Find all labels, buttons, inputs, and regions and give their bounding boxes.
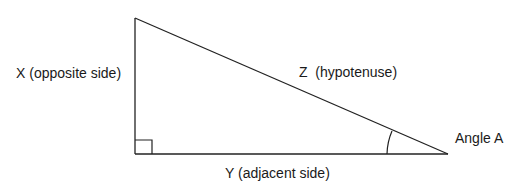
hypotenuse-label: Z (hypotenuse) — [299, 64, 397, 80]
opposite-side-label: X (opposite side) — [16, 65, 121, 81]
angle-a-label: Angle A — [455, 130, 503, 146]
triangle-diagram — [0, 0, 522, 192]
right-angle-marker — [135, 140, 152, 154]
hypotenuse — [135, 18, 448, 154]
adjacent-side-label: Y (adjacent side) — [225, 165, 330, 181]
angle-a-arc — [387, 131, 392, 154]
